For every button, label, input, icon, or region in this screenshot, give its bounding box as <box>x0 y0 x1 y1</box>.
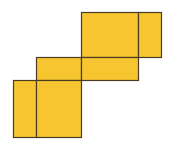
face-bottom-flap <box>14 81 37 138</box>
prism-net-diagram <box>0 0 175 149</box>
face-bottom-large <box>37 81 82 138</box>
face-middle-right <box>82 58 139 81</box>
face-top-flap <box>139 13 162 58</box>
face-top-large <box>82 13 139 58</box>
face-middle-left <box>37 58 82 81</box>
